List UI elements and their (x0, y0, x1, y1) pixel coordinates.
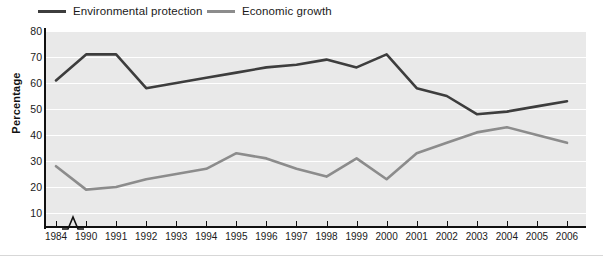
x-axis-tick-label: 2004 (490, 232, 524, 242)
x-axis-tick-mark (266, 221, 267, 227)
x-axis-tick-mark (116, 221, 117, 227)
x-axis-tick-mark (387, 221, 388, 227)
x-axis-tick-label: 1990 (69, 232, 103, 242)
x-axis-tick-mark (296, 221, 297, 227)
x-axis-tick-label: 1993 (159, 232, 193, 242)
x-axis-tick-label: 1995 (219, 232, 253, 242)
line-chart: Environmental protection Economic growth… (0, 0, 603, 263)
x-axis-tick-mark (146, 221, 147, 227)
x-axis-tick-mark (357, 221, 358, 227)
x-axis-tick-label: 2002 (430, 232, 464, 242)
x-axis-tick-mark (567, 221, 568, 227)
x-axis-tick-label: 2003 (460, 232, 494, 242)
x-axis-tick-mark (176, 221, 177, 227)
x-axis-tick-mark (56, 221, 57, 227)
x-axis-tick-label: 1992 (129, 232, 163, 242)
x-axis-tick-mark (507, 221, 508, 227)
x-axis-tick-mark (327, 221, 328, 227)
x-axis-tick-mark (206, 221, 207, 227)
x-axis-tick-mark (417, 221, 418, 227)
x-axis-tick-label: 1984 (39, 232, 73, 242)
axis-break-icon (62, 215, 84, 231)
x-axis-tick-label: 2006 (550, 232, 584, 242)
bottom-divider (0, 255, 603, 256)
x-axis-tick-mark (236, 221, 237, 227)
x-axis-tick-label: 1998 (310, 232, 344, 242)
x-axis-tick-label: 1999 (340, 232, 374, 242)
x-axis-tick-label: 1996 (249, 232, 283, 242)
x-axis-tick-mark (537, 221, 538, 227)
x-axis-tick-mark (86, 221, 87, 227)
x-axis-tick-mark (447, 221, 448, 227)
x-axis-tick-label: 2001 (400, 232, 434, 242)
x-axis-tick-label: 1991 (99, 232, 133, 242)
x-axis-tick-label: 1997 (279, 232, 313, 242)
x-axis-tick-label: 2005 (520, 232, 554, 242)
x-axis-ticks: 1984199019911992199319941995199619971998… (0, 0, 603, 263)
x-axis-tick-label: 1994 (189, 232, 223, 242)
x-axis-tick-label: 2000 (370, 232, 404, 242)
x-axis-tick-mark (477, 221, 478, 227)
